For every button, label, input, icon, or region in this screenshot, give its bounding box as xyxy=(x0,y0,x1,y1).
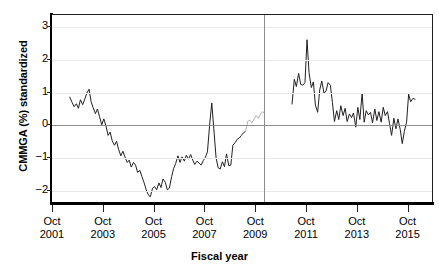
y-tick-mark-0 xyxy=(47,124,51,125)
y-tick-label-0: 0 xyxy=(26,118,48,129)
gridline-y-2 xyxy=(52,60,432,61)
plot-area xyxy=(52,14,433,202)
y-tick-label-1: 1 xyxy=(26,86,48,97)
chart-figure: CMMGA (%) standardized −2−10123 Oct2001O… xyxy=(0,0,439,271)
gridline-y-3 xyxy=(52,27,432,28)
y-tick-mark-3 xyxy=(47,26,51,27)
interruption-line xyxy=(264,15,265,202)
y-tick-label--2: −2 xyxy=(26,184,48,195)
x-tick-mark-2007 xyxy=(204,205,205,212)
y-tick-mark-1 xyxy=(47,92,51,93)
x-tick-label-year: 2015 xyxy=(378,228,438,241)
x-tick-mark-2013 xyxy=(357,205,358,212)
series-line-1 xyxy=(246,112,265,132)
gridline-y--1 xyxy=(52,158,432,159)
x-tick-mark-2015 xyxy=(408,205,409,212)
x-tick-label-2015: Oct2015 xyxy=(378,215,438,241)
x-tick-mark-2005 xyxy=(154,205,155,212)
x-tick-mark-2011 xyxy=(306,205,307,212)
series-line-0 xyxy=(70,89,246,197)
x-axis-title: Fiscal year xyxy=(0,250,439,262)
x-tick-mark-2009 xyxy=(255,205,256,212)
y-tick-mark--2 xyxy=(47,190,51,191)
x-tick-mark-2001 xyxy=(52,205,53,212)
y-tick-label-2: 2 xyxy=(26,53,48,64)
y-tick-mark-2 xyxy=(47,59,51,60)
y-tick-label--1: −1 xyxy=(26,151,48,162)
data-series-group xyxy=(52,15,433,203)
gridline-y-1 xyxy=(52,93,432,94)
gridline-y--2 xyxy=(52,191,432,192)
x-tick-label-month: Oct xyxy=(378,215,438,228)
y-tick-label-3: 3 xyxy=(26,20,48,31)
y-tick-mark--1 xyxy=(47,157,51,158)
x-tick-mark-2003 xyxy=(103,205,104,212)
gridline-y-0 xyxy=(52,125,432,126)
